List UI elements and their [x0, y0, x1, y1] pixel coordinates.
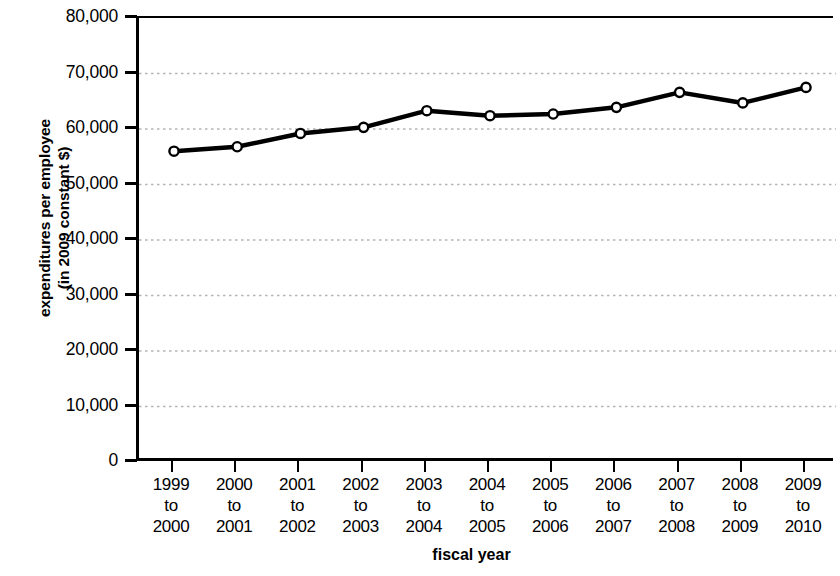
- series-markers: [169, 83, 810, 156]
- gridlines: [139, 74, 836, 407]
- x-axis-tick-label-line: 2010: [763, 516, 840, 537]
- series-canvas: [139, 18, 836, 462]
- x-axis-line: [136, 458, 833, 461]
- x-axis-tick-label: 2009to2010: [763, 474, 840, 537]
- x-axis-tick-mark: [677, 461, 679, 472]
- y-axis-tick-labels: 010,00020,00030,00040,00050,00060,00070,…: [0, 0, 118, 476]
- y-axis-tick-label: 80,000: [0, 6, 118, 27]
- y-axis-tick-label: 40,000: [0, 228, 118, 249]
- data-point-marker: [612, 103, 621, 112]
- y-axis-tick-label: 60,000: [0, 117, 118, 138]
- x-axis-title: fiscal year: [0, 546, 833, 564]
- y-axis-tick-label: 10,000: [0, 394, 118, 415]
- y-axis-tick-label: 20,000: [0, 339, 118, 360]
- y-axis-tick-label: 0: [0, 450, 118, 471]
- x-axis-tick-mark: [803, 461, 805, 472]
- x-axis-tick-mark: [613, 461, 615, 472]
- x-axis-tick-mark: [171, 461, 173, 472]
- data-point-marker: [738, 98, 747, 107]
- x-axis-tick-mark: [297, 461, 299, 472]
- data-point-marker: [801, 83, 810, 92]
- data-point-marker: [296, 129, 305, 138]
- data-point-marker: [485, 111, 494, 120]
- plot-area: [136, 16, 833, 460]
- x-axis-tick-mark: [234, 461, 236, 472]
- data-point-marker: [549, 109, 558, 118]
- x-axis-tick-label-line: to: [763, 495, 840, 516]
- x-axis-tick-label-line: 2009: [763, 474, 840, 495]
- y-axis-tick-label: 30,000: [0, 283, 118, 304]
- data-point-marker: [233, 142, 242, 151]
- y-axis-tick-label: 50,000: [0, 172, 118, 193]
- data-point-marker: [422, 106, 431, 115]
- x-axis-tick-mark: [740, 461, 742, 472]
- x-axis-tick-mark: [487, 461, 489, 472]
- data-point-marker: [675, 88, 684, 97]
- x-axis-tick-mark: [424, 461, 426, 472]
- x-axis-tick-mark: [361, 461, 363, 472]
- data-point-marker: [359, 123, 368, 132]
- x-axis-tick-mark: [550, 461, 552, 472]
- data-point-marker: [169, 147, 178, 156]
- y-axis-tick-label: 70,000: [0, 61, 118, 82]
